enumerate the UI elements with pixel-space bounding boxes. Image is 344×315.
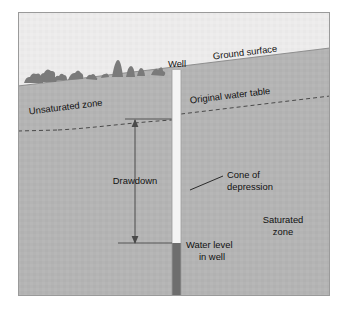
label-saturated-zone-line2: zone	[273, 226, 293, 237]
label-well: Well	[168, 58, 186, 69]
label-saturated-zone-line1: Saturated	[263, 214, 304, 225]
well-water-column	[172, 243, 181, 296]
label-cone-of-depression-line2: depression	[227, 181, 273, 192]
label-cone-of-depression-line1: Cone of	[227, 169, 260, 180]
label-drawdown: Drawdown	[113, 175, 157, 186]
well-casing	[172, 70, 181, 243]
label-water-level-line1: Water level	[186, 239, 233, 250]
groundwater-cross-section-diagram: Well Ground surface Unsaturated zone Ori…	[0, 0, 344, 315]
label-water-level-line2: in well	[199, 251, 225, 262]
figure-root: Well Ground surface Unsaturated zone Ori…	[0, 0, 344, 315]
